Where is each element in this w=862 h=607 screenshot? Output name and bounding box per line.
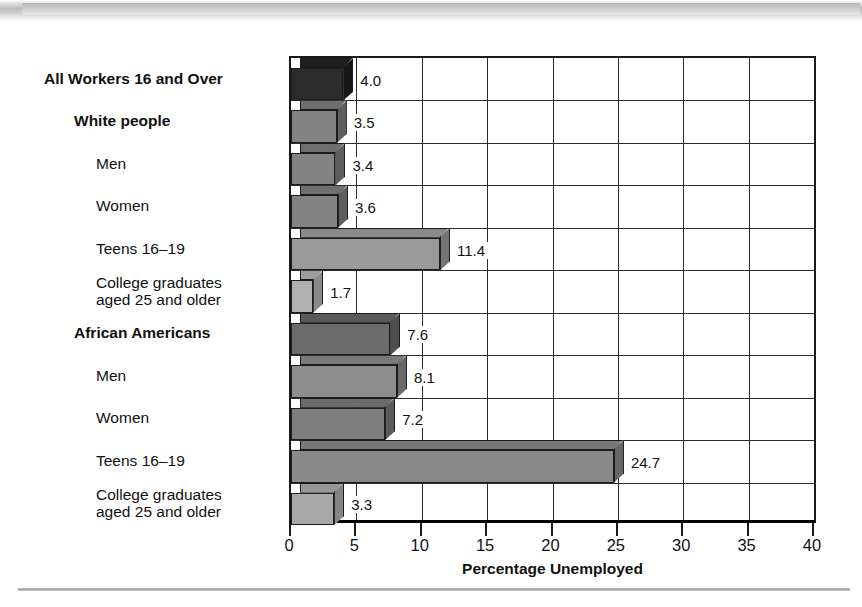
bar-value-label: 4.0 bbox=[357, 72, 384, 89]
category-label-column: All Workers 16 and OverWhite peopleMenWo… bbox=[0, 48, 282, 526]
unemployment-bar-chart-figure: All Workers 16 and OverWhite peopleMenWo… bbox=[0, 0, 862, 607]
bar-front-face bbox=[291, 195, 338, 227]
bar-front-face bbox=[291, 68, 343, 100]
x-tick-label: 25 bbox=[586, 536, 646, 555]
bar-value-label: 3.6 bbox=[352, 199, 379, 216]
bar-top-face bbox=[300, 355, 406, 365]
page-bottom-rule bbox=[18, 588, 850, 591]
bar-front-face bbox=[291, 153, 335, 185]
bar-front-face bbox=[291, 450, 614, 482]
category-label-4: Teens 16–19 bbox=[96, 240, 268, 257]
x-tick bbox=[812, 523, 814, 536]
x-axis-tick-labels: 0510152025303540 bbox=[229, 536, 862, 558]
bar-front-face bbox=[291, 408, 385, 440]
category-label-7: Men bbox=[96, 367, 268, 384]
x-tick bbox=[747, 523, 749, 536]
bar-top-face bbox=[300, 398, 394, 408]
bar-value-label: 3.3 bbox=[348, 496, 375, 513]
bar-2 bbox=[291, 153, 335, 185]
category-label-6: African Americans bbox=[74, 324, 268, 341]
bar-3 bbox=[291, 195, 338, 227]
bar-front-face bbox=[291, 238, 440, 270]
bar-top-face bbox=[300, 313, 399, 323]
bar-10 bbox=[291, 493, 334, 525]
category-label-9: Teens 16–19 bbox=[96, 452, 268, 469]
bar-front-face bbox=[291, 493, 334, 525]
x-tick-label: 0 bbox=[259, 536, 319, 555]
x-tick bbox=[289, 523, 291, 536]
x-tick-label: 30 bbox=[651, 536, 711, 555]
vertical-gridline bbox=[683, 58, 684, 520]
bar-value-label: 7.2 bbox=[399, 411, 426, 428]
category-label-2: Men bbox=[96, 155, 268, 172]
bar-value-label: 8.1 bbox=[411, 369, 438, 386]
x-tick bbox=[551, 523, 553, 536]
x-tick bbox=[681, 523, 683, 536]
bar-top-face bbox=[300, 440, 623, 450]
category-label-5: College graduates aged 25 and older bbox=[96, 274, 268, 308]
bar-front-face bbox=[291, 280, 313, 312]
x-tick bbox=[354, 523, 356, 536]
bar-value-label: 11.4 bbox=[454, 242, 488, 259]
x-tick-label: 10 bbox=[390, 536, 450, 555]
bar-value-label: 3.4 bbox=[349, 157, 376, 174]
bar-4 bbox=[291, 238, 440, 270]
x-tick-label: 40 bbox=[782, 536, 842, 555]
x-axis-title: Percentage Unemployed bbox=[289, 560, 816, 578]
bar-8 bbox=[291, 408, 385, 440]
bar-value-label: 7.6 bbox=[404, 326, 431, 343]
bar-top-face bbox=[300, 228, 449, 238]
x-tick-label: 15 bbox=[455, 536, 515, 555]
bar-value-label: 24.7 bbox=[628, 454, 663, 471]
plot-area: 3.324.77.28.17.61.711.43.63.43.54.0 bbox=[289, 56, 816, 523]
bar-front-face bbox=[291, 323, 390, 355]
category-label-1: White people bbox=[74, 112, 268, 129]
bar-6 bbox=[291, 323, 390, 355]
category-label-8: Women bbox=[96, 409, 268, 426]
bar-front-face bbox=[291, 110, 337, 142]
bar-front-face bbox=[291, 365, 397, 397]
x-tick-label: 20 bbox=[521, 536, 581, 555]
category-label-3: Women bbox=[96, 197, 268, 214]
bar-7 bbox=[291, 365, 397, 397]
x-tick-label: 5 bbox=[324, 536, 384, 555]
x-tick bbox=[420, 523, 422, 536]
x-tick bbox=[616, 523, 618, 536]
x-tick bbox=[485, 523, 487, 536]
category-label-0: All Workers 16 and Over bbox=[44, 70, 268, 87]
vertical-gridline bbox=[749, 58, 750, 520]
bar-value-label: 3.5 bbox=[351, 114, 378, 131]
bar-1 bbox=[291, 110, 337, 142]
bar-value-label: 1.7 bbox=[327, 284, 354, 301]
x-tick-label: 35 bbox=[717, 536, 777, 555]
bar-9 bbox=[291, 450, 614, 482]
category-label-10: College graduates aged 25 and older bbox=[96, 486, 268, 520]
bar-0 bbox=[291, 68, 343, 100]
bar-5 bbox=[291, 280, 313, 312]
